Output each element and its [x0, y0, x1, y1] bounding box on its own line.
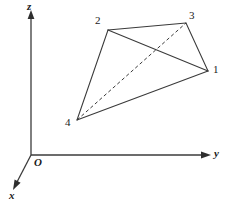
vertex-label-3: 3 — [189, 10, 195, 21]
edge-1-4 — [77, 71, 208, 120]
y-axis-label: y — [214, 148, 219, 159]
vertex-label-4: 4 — [65, 117, 71, 128]
x-axis-label: x — [9, 190, 15, 201]
edge-2-1 — [108, 30, 208, 71]
figure-container: z y x O 1 2 3 4 — [0, 0, 241, 211]
vertex-label-1: 1 — [213, 64, 219, 75]
vertex-label-2: 2 — [95, 15, 101, 26]
z-axis-label: z — [27, 1, 31, 12]
tetrahedron-diagram — [0, 0, 241, 211]
x-axis-line — [17, 155, 31, 182]
origin-label: O — [34, 157, 42, 168]
edge-2-3 — [108, 23, 186, 30]
y-axis-arrowhead — [201, 152, 211, 159]
